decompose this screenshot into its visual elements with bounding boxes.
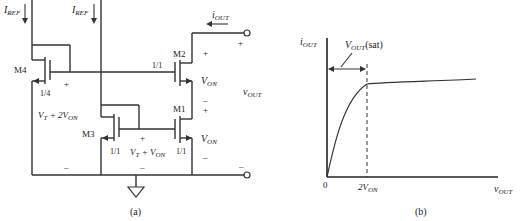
vout-sat-annotation: VOUT(sat)	[345, 39, 383, 52]
y-axis-label: iOUT	[300, 36, 318, 49]
transistor-m3: M3 1/1	[82, 105, 139, 175]
vout-label: vOUT	[243, 86, 263, 99]
plus-sign: +	[203, 105, 208, 115]
plus-sign: +	[203, 48, 208, 58]
iout-vs-vout-plot: iOUT vOUT VOUT(sat) 0 2VON (b)	[300, 36, 514, 218]
plus-sign: +	[140, 133, 145, 143]
transistor-m2: M2 1/1	[152, 30, 250, 110]
caption-b: (b)	[415, 206, 427, 218]
minus-sign: –	[202, 95, 208, 105]
circuit-and-plot: IREF IREF M4 1/4 +	[0, 0, 521, 221]
x-axis-label: vOUT	[494, 183, 514, 196]
figure-canvas: IREF IREF M4 1/4 +	[0, 0, 521, 221]
caption-a: (a)	[130, 206, 141, 218]
arrow-left-icon	[328, 66, 334, 72]
arrow-right-icon	[360, 66, 366, 72]
iout-label: iOUT	[212, 9, 230, 22]
m2-von-label: VON	[201, 75, 217, 88]
m1-label: M1	[173, 104, 186, 114]
x-tick-2von: 2VON	[358, 182, 378, 194]
m4-label: M4	[14, 65, 27, 75]
minus-sign: –	[139, 162, 145, 172]
iout-curve	[327, 79, 476, 177]
m4-ratio: 1/4	[40, 89, 50, 98]
minus-sign: –	[63, 162, 69, 172]
transistor-m1: M1 1/1	[173, 104, 192, 175]
m3-gate-voltage-label: VT + VON	[130, 147, 166, 159]
iref-label-left: IREF	[3, 4, 21, 17]
m1-von-label: VON	[201, 133, 217, 146]
m1-ratio: 1/1	[176, 147, 186, 156]
m3-ratio: 1/1	[110, 147, 120, 156]
iref-source-left: IREF	[3, 0, 32, 45]
iref-source-right: IREF	[71, 0, 101, 105]
iref-label-right: IREF	[71, 4, 89, 17]
arrow-left-icon	[206, 21, 212, 27]
minus-sign: –	[202, 152, 208, 162]
m3-label: M3	[82, 129, 95, 139]
m4-gate-voltage-label: VT + 2VON	[38, 110, 78, 122]
m2-label: M2	[173, 49, 186, 59]
plus-sign: +	[238, 38, 243, 48]
minus-sign: –	[238, 161, 244, 171]
plus-sign: +	[64, 79, 69, 89]
arrow-down-icon	[22, 18, 28, 24]
cascode-current-mirror-circuit: IREF IREF M4 1/4 +	[3, 0, 263, 218]
output-terminal-bottom	[244, 172, 250, 178]
x-tick-zero: 0	[323, 180, 328, 190]
output-terminal-top	[244, 30, 250, 36]
ground-icon	[128, 175, 144, 197]
m2-ratio: 1/1	[152, 61, 162, 70]
arrow-down-icon	[91, 18, 97, 24]
